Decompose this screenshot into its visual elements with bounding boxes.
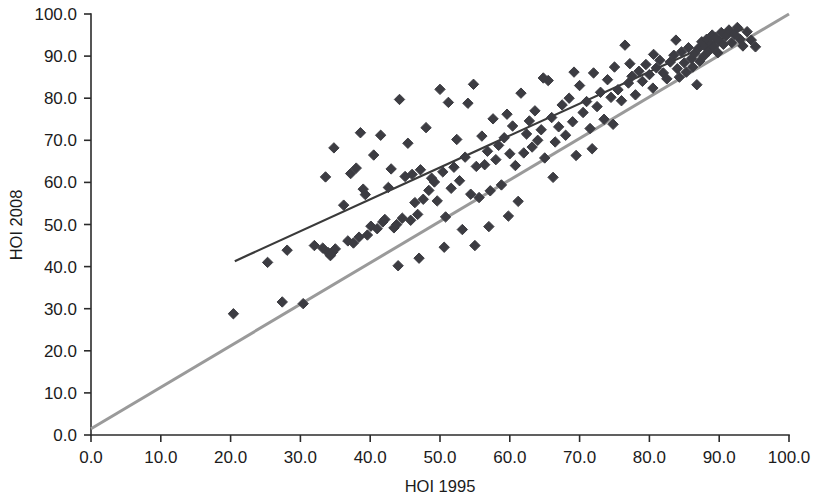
x-tick-label: 50.0 [423, 448, 456, 467]
y-tick-label: 80.0 [44, 89, 77, 108]
data-point [606, 92, 616, 102]
data-point [375, 130, 385, 140]
data-point [262, 257, 272, 267]
data-point [491, 154, 501, 164]
data-point [536, 125, 546, 135]
data-point [567, 117, 577, 127]
data-point [443, 97, 453, 107]
data-point [571, 150, 581, 160]
data-point [282, 245, 292, 255]
x-tick-label: 80.0 [633, 448, 666, 467]
data-point [578, 107, 588, 117]
data-point [519, 148, 529, 158]
data-point-group [228, 22, 761, 319]
data-point [394, 94, 404, 104]
data-point [470, 240, 480, 250]
data-point [609, 62, 619, 72]
data-point [620, 40, 630, 50]
data-point [587, 144, 597, 154]
data-point [641, 59, 651, 69]
data-point [228, 309, 238, 319]
data-point [452, 134, 462, 144]
y-axis-title: HOI 2008 [7, 190, 25, 261]
y-tick-label: 40.0 [44, 258, 77, 277]
y-tick-label: 20.0 [44, 342, 77, 361]
y-tick-label: 50.0 [44, 216, 77, 235]
data-point [613, 85, 623, 95]
y-tick-label: 0.0 [53, 426, 77, 445]
x-tick-label: 90.0 [703, 448, 736, 467]
x-tick-label: 0.0 [79, 448, 103, 467]
plot-canvas: 0.010.020.030.040.050.060.070.080.090.01… [0, 0, 814, 500]
data-point [457, 224, 467, 234]
x-tick-label: 100.0 [768, 448, 811, 467]
data-point [432, 196, 442, 206]
data-point [585, 123, 595, 133]
y-tick-label: 70.0 [44, 131, 77, 150]
data-point [468, 79, 478, 89]
data-point [471, 161, 481, 171]
data-point [329, 143, 339, 153]
x-tick-label: 30.0 [284, 448, 317, 467]
data-point [488, 114, 498, 124]
y-tick-label: 10.0 [44, 384, 77, 403]
data-point [616, 96, 626, 106]
data-point [505, 149, 515, 159]
data-point [671, 35, 681, 45]
data-point [424, 185, 434, 195]
scatter-chart: 0.010.020.030.040.050.060.070.080.090.01… [0, 0, 814, 500]
data-point [550, 137, 560, 147]
data-point [564, 93, 574, 103]
y-tick-label: 90.0 [44, 47, 77, 66]
y-tick-label: 30.0 [44, 300, 77, 319]
data-point [507, 121, 517, 131]
data-point [446, 183, 456, 193]
y-tick-label: 100.0 [34, 5, 77, 24]
data-point [692, 80, 702, 90]
data-point [435, 84, 445, 94]
data-point [355, 128, 365, 138]
data-point [513, 196, 523, 206]
data-point [479, 160, 489, 170]
y-tick-label-group: 0.010.020.030.040.050.060.070.080.090.01… [34, 5, 77, 445]
data-point [477, 131, 487, 141]
data-point [320, 172, 330, 182]
x-tick-label-group: 0.010.020.030.040.050.060.070.080.090.01… [79, 448, 810, 467]
data-point [503, 211, 513, 221]
data-point [588, 68, 598, 78]
data-point [602, 74, 612, 84]
data-point [516, 88, 526, 98]
data-point [277, 297, 287, 307]
data-point [592, 101, 602, 111]
data-point [414, 253, 424, 263]
x-tick-label: 40.0 [354, 448, 387, 467]
x-tick-label: 70.0 [563, 448, 596, 467]
data-point [439, 242, 449, 252]
y-tick-label: 60.0 [44, 173, 77, 192]
data-point [574, 80, 584, 90]
data-point [386, 164, 396, 174]
data-point [548, 172, 558, 182]
data-point [454, 176, 464, 186]
data-point [557, 100, 567, 110]
x-tick-label: 10.0 [144, 448, 177, 467]
x-axis-title: HOI 1995 [405, 477, 476, 495]
data-point [484, 221, 494, 231]
data-point [502, 109, 512, 119]
data-point [393, 261, 403, 271]
data-point [625, 58, 635, 68]
data-point [530, 106, 540, 116]
data-point [463, 98, 473, 108]
data-point [368, 150, 378, 160]
x-tick-label: 60.0 [493, 448, 526, 467]
data-point [383, 182, 393, 192]
x-tick-label: 20.0 [214, 448, 247, 467]
data-point [560, 130, 570, 140]
data-point [421, 122, 431, 132]
data-point [553, 122, 563, 132]
data-point [630, 90, 640, 100]
data-point [510, 160, 520, 170]
data-point [403, 138, 413, 148]
data-point [569, 67, 579, 77]
